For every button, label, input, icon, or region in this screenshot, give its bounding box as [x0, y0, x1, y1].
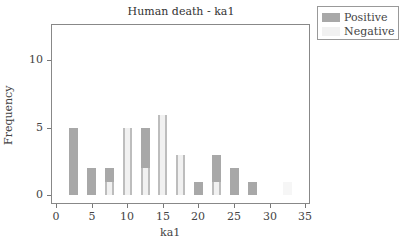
y-tick-10: [47, 60, 51, 61]
positive-swatch: [322, 13, 340, 22]
x-tick-label: 5: [80, 210, 104, 223]
bar-negative: [141, 168, 150, 195]
bar-positive: [248, 182, 257, 195]
x-tick: [305, 204, 306, 208]
bar-positive: [87, 168, 96, 195]
bar-negative: [123, 128, 132, 195]
x-tick: [234, 204, 235, 208]
y-tick-label: 0: [23, 188, 43, 201]
negative-swatch: [322, 27, 340, 36]
x-tick-label: 25: [222, 210, 246, 223]
x-tick-label: 10: [115, 210, 139, 223]
x-tick-label: 15: [151, 210, 175, 223]
bar-negative: [283, 182, 292, 195]
x-tick-label: 30: [258, 210, 282, 223]
x-tick-label: 35: [293, 210, 317, 223]
x-tick: [198, 204, 199, 208]
x-tick-label: 0: [44, 210, 68, 223]
x-tick: [56, 204, 57, 208]
bar-negative: [158, 115, 167, 195]
x-tick: [163, 204, 164, 208]
x-axis-title: ka1: [160, 226, 180, 239]
y-axis-title: Frequency: [2, 86, 15, 146]
bar-negative: [212, 182, 221, 195]
y-tick-label: 10: [23, 53, 43, 66]
x-tick: [127, 204, 128, 208]
x-tick: [92, 204, 93, 208]
bar-positive: [194, 182, 203, 195]
bar-positive: [230, 168, 239, 195]
legend: Positive Negative: [317, 6, 399, 40]
bar-negative: [105, 182, 114, 195]
x-tick-label: 20: [186, 210, 210, 223]
legend-label: Positive: [344, 11, 387, 24]
legend-item-negative: Negative: [322, 24, 394, 38]
y-tick-label: 5: [23, 121, 43, 134]
x-tick: [270, 204, 271, 208]
y-tick-5: [47, 128, 51, 129]
legend-label: Negative: [344, 25, 394, 38]
bar-positive: [69, 128, 78, 195]
legend-item-positive: Positive: [322, 10, 387, 24]
chart-title: Human death - ka1: [51, 5, 311, 18]
bar-negative: [176, 155, 185, 195]
y-tick-0: [47, 195, 51, 196]
